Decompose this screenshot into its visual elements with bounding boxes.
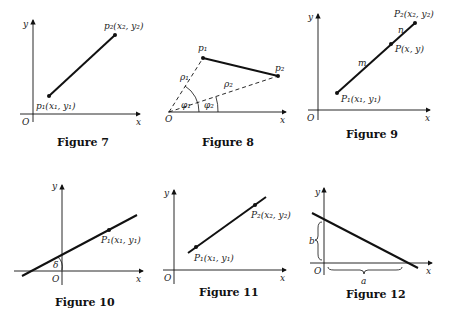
- point-p1-label: p₁: [198, 43, 207, 53]
- intercept-a-label: a: [361, 276, 366, 286]
- point-p1-label: P₁(x₁, y₁): [193, 253, 234, 263]
- figure-10: y x O δ P₁(x₁, y₁) Figure 10: [14, 181, 143, 309]
- figure-12: y x O b a Figure 12: [309, 187, 432, 301]
- figure-9-caption: Figure 9: [346, 128, 398, 141]
- brace-b: [315, 222, 322, 260]
- y-axis-label: y: [314, 187, 321, 197]
- line-l: [22, 215, 137, 276]
- y-axis-label: y: [163, 188, 170, 198]
- point-p1-label: p₁(x₁, y₁): [36, 101, 76, 111]
- origin-label: O: [164, 273, 172, 283]
- x-axis-label: x: [426, 266, 431, 276]
- point-p2: [113, 33, 117, 37]
- figure-10-caption: Figure 10: [55, 296, 115, 309]
- figure-9: y x O P₁(x₁, y₁) P(x, y) P₂(x₂, y₂) m n …: [307, 9, 434, 141]
- origin-label: O: [307, 113, 315, 123]
- point-p1: [47, 94, 51, 98]
- x-axis-label: x: [136, 117, 141, 127]
- figure-11: y x O P₁(x₁, y₁) P₂(x₂, y₂) Figure 11: [163, 188, 291, 299]
- x-axis-label: x: [136, 274, 141, 284]
- figure-12-caption: Figure 12: [346, 288, 406, 301]
- point-p1: [107, 228, 111, 232]
- brace-a: [328, 267, 402, 274]
- point-p2: [253, 203, 257, 207]
- figures-canvas: y x O p₁(x₁, y₁) p₂(x₂, y₂) Figure 7 x O…: [0, 0, 455, 317]
- origin-label: O: [314, 266, 322, 276]
- angle-phi2-arc: [216, 97, 218, 112]
- intercept-b-label: b: [309, 236, 315, 246]
- segment-m-label: m: [358, 58, 367, 68]
- point-p1: [335, 91, 339, 95]
- point-p: [389, 42, 393, 46]
- rho2-label: ρ₂: [223, 79, 233, 89]
- point-p2-label: p₂(x₂, y₂): [104, 21, 144, 31]
- phi2-label: φ₂: [204, 100, 214, 110]
- figure-7: y x O p₁(x₁, y₁) p₂(x₂, y₂) Figure 7: [20, 19, 144, 149]
- figure-8: x O p₁ p₂ ρ₁ ρ₂ φ₁ φ₂ Figure 8: [165, 43, 286, 149]
- point-p2: [276, 74, 280, 78]
- point-p1: [194, 245, 198, 249]
- line-l: [312, 213, 418, 268]
- point-p2: [413, 21, 417, 25]
- figure-8-caption: Figure 8: [202, 136, 254, 149]
- angle-delta-label: δ: [53, 260, 58, 270]
- segment-p1-p2: [49, 35, 115, 96]
- segment-n-label: n: [398, 25, 404, 35]
- y-axis-label: y: [22, 19, 29, 29]
- x-axis-label: x: [425, 113, 430, 123]
- figure-11-caption: Figure 11: [199, 286, 259, 299]
- x-axis-label: x: [280, 115, 285, 125]
- origin-label: O: [52, 274, 60, 284]
- point-p2-label: P₂(x₂, y₂): [393, 9, 434, 19]
- point-p2-label: p₂: [275, 63, 285, 73]
- point-p1-label: P₁(x₁, y₁): [340, 94, 381, 104]
- rho1-label: ρ₁: [179, 72, 189, 82]
- figure-7-caption: Figure 7: [57, 136, 109, 149]
- point-p-label: P(x, y): [394, 44, 424, 54]
- y-axis-label: y: [51, 181, 58, 191]
- phi1-label: φ₁: [181, 100, 191, 110]
- y-axis-label: y: [307, 12, 314, 22]
- x-axis-label: x: [280, 273, 285, 283]
- segment-p1-p2: [203, 58, 278, 76]
- origin-label: O: [165, 114, 173, 124]
- point-p1: [201, 56, 205, 60]
- point-p2-label: P₂(x₂, y₂): [250, 210, 291, 220]
- origin-label: O: [22, 117, 30, 127]
- point-p1-label: P₁(x₁, y₁): [100, 235, 141, 245]
